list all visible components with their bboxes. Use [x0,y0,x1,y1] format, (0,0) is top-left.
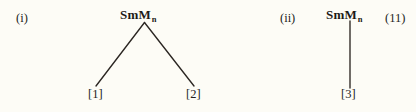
parent-formula-i: SmM [120,7,151,22]
equation-number: (11) [385,12,405,25]
scheme-label-ii: (ii) [280,12,295,25]
bond-line-left-branch [96,23,145,87]
product-label-3: [3] [341,88,356,101]
parent-species-i: SmMn [120,8,156,21]
diagram-canvas: (i) SmMn [1] [2] (ii) SmMn (11) [3] [0,0,416,112]
product-label-2: [2] [186,88,201,101]
product-label-1: [1] [88,88,103,101]
scheme-label-i: (i) [16,12,28,25]
parent-subscript-ii: n [358,14,363,24]
parent-subscript-i: n [152,14,157,24]
bond-line-right-branch [145,23,195,87]
parent-species-ii: SmMn [326,8,362,21]
parent-formula-ii: SmM [326,7,357,22]
